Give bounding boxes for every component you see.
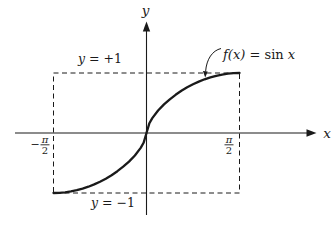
lower-bound-equation: = −1	[98, 195, 135, 210]
x-tick-right-denominator: 2	[226, 145, 232, 156]
x-tick-left-denominator: 2	[42, 145, 48, 156]
x-tick-right-numerator: π	[225, 134, 233, 145]
lower-bound-label: y = −1	[90, 195, 135, 210]
x-tick-left-sign: −	[30, 138, 39, 151]
y-axis-label: y	[141, 2, 150, 18]
upper-bound-equation: = +1	[85, 51, 122, 66]
x-tick-right: π 2	[225, 134, 234, 156]
curve-label-argument: x	[288, 47, 296, 62]
upper-bound-label: y = +1	[77, 51, 122, 66]
x-tick-left: − π 2	[30, 134, 49, 156]
curve-label-relation: = sin	[245, 47, 288, 62]
x-tick-left-numerator: π	[41, 134, 49, 145]
y-axis-arrowhead	[143, 22, 150, 32]
figure-container: y x y = +1 y = −1 − π 2 π 2 f(x) = sin x	[0, 0, 335, 229]
curve-label-leader-arrowhead	[203, 71, 208, 77]
x-axis-arrowhead	[307, 129, 317, 136]
curve-label: f(x) = sin x	[222, 47, 296, 62]
x-axis-label: x	[323, 125, 331, 141]
curve-label-leader-line	[206, 49, 221, 72]
curve-label-function: f(x)	[222, 47, 245, 62]
sine-plot: y x y = +1 y = −1 − π 2 π 2 f(x) = sin x	[0, 0, 335, 229]
